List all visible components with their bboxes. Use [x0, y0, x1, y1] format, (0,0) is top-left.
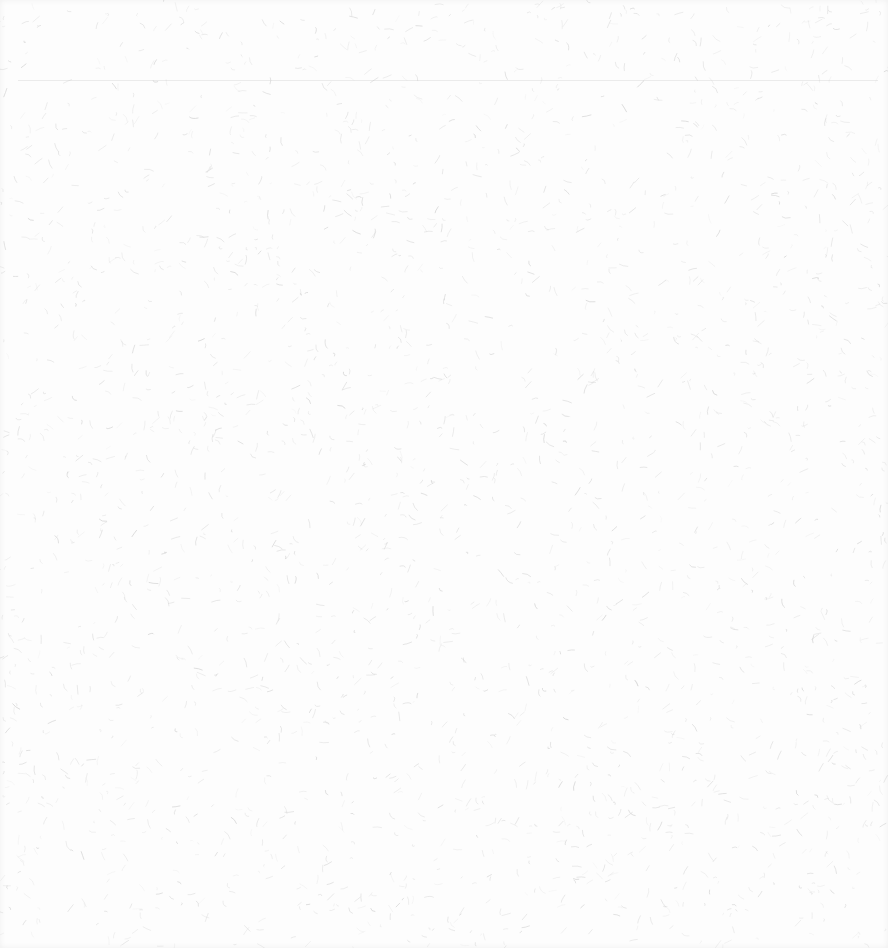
blank-paper-page: [0, 0, 888, 948]
faint-horizontal-rule: [18, 80, 878, 81]
page-edge-shade: [0, 0, 888, 948]
paper-fiber-texture: [0, 0, 888, 948]
